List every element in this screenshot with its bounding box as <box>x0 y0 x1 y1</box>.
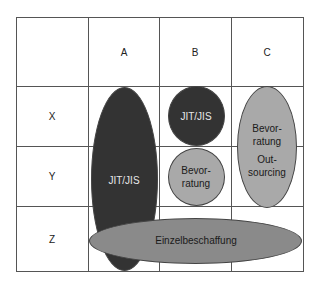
bevorratung-b-line1: Bevor- <box>181 164 210 177</box>
column-header-c: C <box>263 47 270 58</box>
row-header-x: X <box>49 111 56 122</box>
jit-jis-a-label: JIT/JIS <box>108 174 139 187</box>
row-header-y: Y <box>49 171 56 182</box>
column-header-b: B <box>192 47 199 58</box>
row-header-z: Z <box>49 234 55 245</box>
outsourcing-c-line1: Out- <box>248 153 286 166</box>
jit-jis-b-label: JIT/JIS <box>180 110 211 123</box>
bevorratung-b-label: Bevor- ratung <box>181 164 210 190</box>
outsourcing-c-line2: sourcing <box>248 166 286 179</box>
einzelbeschaffung-z-label: Einzelbeschaffung <box>155 234 237 247</box>
grid-line <box>88 17 89 272</box>
grid-line <box>16 271 304 272</box>
bevorratung-c-line2: ratung <box>252 135 281 148</box>
bevorratung-c-line1: Bevor- <box>252 122 281 135</box>
grid-line <box>16 17 304 18</box>
grid-line <box>16 17 17 272</box>
bevorratung-b-line2: ratung <box>181 177 210 190</box>
column-header-a: A <box>121 47 128 58</box>
outsourcing-c-label: Out- sourcing <box>248 153 286 179</box>
grid-line <box>303 17 304 272</box>
bevorratung-c-label: Bevor- ratung <box>252 122 281 148</box>
